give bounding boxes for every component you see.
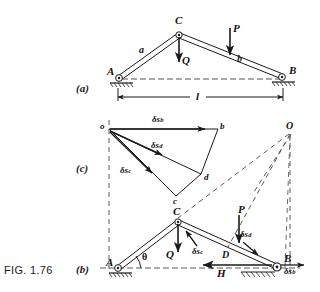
force-label-h: H [217, 267, 226, 279]
figure-caption: FIG. 1.76 [4, 264, 53, 276]
joint-label-b-panel-b: B [284, 252, 291, 264]
dimension-label-l: l [196, 90, 199, 102]
joint-label-b-panel-a: B [289, 64, 296, 76]
angle-label-theta: θ [142, 251, 147, 262]
joint-label-a-panel-b: A [106, 256, 113, 268]
vector-label-delta-s-c: δsc [120, 165, 131, 175]
displacement-label-delta-s-b-b: δsb [284, 266, 295, 276]
member-label-a: a [139, 44, 144, 55]
figure-1-76: A B C a b P Q l o b d c O δsb δsd δsc A … [0, 0, 320, 292]
dimension-l [118, 88, 283, 104]
support-b [272, 82, 295, 86]
vector-label-delta-s-b: δsb [152, 114, 163, 124]
joint-label-c-panel-b: C [173, 205, 180, 217]
panel-letter-a: (a) [76, 82, 89, 94]
force-label-p-panel-b: P [238, 203, 245, 215]
dashed-ray-O-C [178, 134, 289, 218]
node-label-o: o [100, 121, 105, 131]
vector-label-delta-s-d: δsd [151, 140, 162, 150]
poly-edge-oc [109, 129, 176, 196]
panel-a-truss [110, 28, 295, 104]
panel-letter-b: (b) [76, 263, 89, 275]
node-label-centre-O: O [286, 120, 293, 131]
node-label-b: b [220, 121, 225, 131]
arrow-delta-s-d-b [243, 242, 258, 255]
poly-edge-bd [201, 129, 218, 174]
node-label-d: d [204, 172, 209, 182]
support-b-b [241, 272, 275, 277]
member-b-bar [179, 33, 283, 79]
force-label-q-panel-a: Q [182, 54, 190, 66]
member-cb-bar-b [178, 220, 277, 269]
angle-arc-theta [136, 256, 141, 268]
panel-letter-c: (c) [76, 162, 88, 174]
support-a-b [109, 273, 132, 277]
displacement-label-delta-s-d-b: δsd [240, 229, 251, 239]
joint-label-d-panel-b: D [222, 249, 229, 260]
member-ac-bar-b [117, 220, 180, 270]
vector-delta-s-c [110, 132, 152, 173]
joint-label-a-panel-a: A [107, 65, 114, 77]
dashed-ray-O-B [285, 136, 290, 268]
force-label-q-panel-b: Q [166, 248, 174, 260]
support-a [110, 83, 133, 87]
joint-label-c-panel-a: C [175, 14, 182, 26]
dashed-ray-O-mid [252, 134, 291, 195]
member-a-bar [118, 33, 181, 80]
member-label-b: b [237, 53, 242, 64]
force-label-p-panel-a: P [233, 22, 240, 34]
poly-edge-dc [176, 174, 201, 196]
displacement-label-delta-s-c-b: δsc [192, 246, 203, 256]
